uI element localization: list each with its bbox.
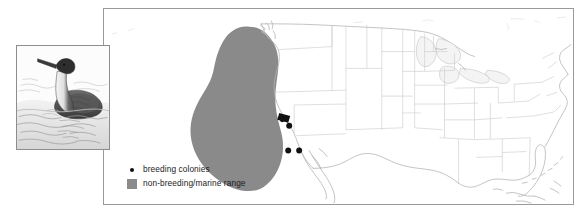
legend-dot-icon (126, 164, 138, 175)
map-legend: breeding colonies non-breeding/marine ra… (126, 163, 296, 191)
gulf-coast (458, 175, 529, 187)
breeding-colony-marker (286, 123, 292, 129)
us-southern-border (313, 153, 458, 183)
legend-item-breeding-colonies: breeding colonies (126, 163, 296, 176)
breeding-colony-marker (296, 148, 302, 154)
figure-root: .coast { fill:none; stroke:#b4b4b4; stro… (0, 0, 585, 223)
bird-illustration-inset (16, 45, 110, 150)
east-coast (545, 74, 568, 146)
legend-swatch-icon (126, 178, 138, 189)
loon-illustration (17, 46, 109, 149)
legend-item-marine-range: non-breeding/marine range (126, 177, 296, 190)
breeding-colony-marker (285, 148, 291, 154)
gulf-of-california (309, 151, 335, 203)
legend-label-breeding-colonies: breeding colonies (143, 164, 210, 175)
northeast-coast (560, 45, 571, 75)
breeding-colony-marker (280, 117, 285, 122)
map-artifacts (112, 19, 524, 34)
florida-peninsula (518, 145, 545, 197)
state-borders-west (275, 25, 424, 136)
legend-label-marine-range: non-breeding/marine range (143, 178, 246, 189)
loon-eye (63, 64, 65, 66)
great-lakes (416, 37, 509, 84)
